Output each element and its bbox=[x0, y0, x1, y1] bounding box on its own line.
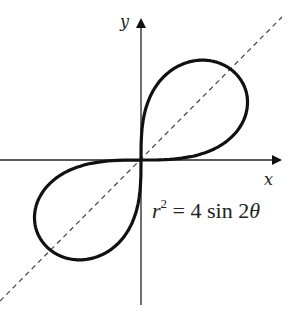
x-axis-label: x bbox=[264, 170, 273, 189]
eq-exponent: 2 bbox=[161, 196, 168, 211]
y-axis-label: y bbox=[120, 12, 129, 31]
eq-rest: = 4 sin 2 bbox=[167, 198, 249, 223]
eq-theta: θ bbox=[249, 198, 260, 223]
plot-canvas bbox=[0, 0, 291, 314]
equation-label: r2 = 4 sin 2θ bbox=[152, 198, 260, 224]
lemniscate-diagram: y x r2 = 4 sin 2θ bbox=[0, 0, 291, 314]
eq-r: r bbox=[152, 198, 161, 223]
